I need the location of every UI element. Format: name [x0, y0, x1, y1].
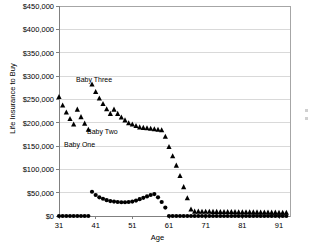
marker-point: [68, 214, 72, 218]
y-tick-label-8: $400,000: [0, 25, 54, 34]
marker-point: [138, 197, 142, 201]
y-tick-label-2: $100,000: [0, 165, 54, 174]
marker-point: [207, 214, 211, 218]
y-tick-label-7: $350,000: [0, 48, 54, 57]
marker-point: [262, 214, 266, 218]
marker-point: [204, 214, 208, 218]
marker-point: [226, 214, 230, 218]
marker-point: [193, 214, 197, 218]
marker-point: [218, 214, 222, 218]
marker-point: [284, 214, 288, 218]
x-tick-label-1: 41: [91, 221, 99, 230]
marker-point: [270, 214, 274, 218]
marker-point: [167, 214, 171, 218]
marker-point: [123, 200, 127, 204]
y-tick-label-6: $300,000: [0, 72, 54, 81]
marker-point: [75, 214, 79, 218]
marker-point: [83, 214, 87, 218]
marker-point: [86, 214, 90, 218]
y-tick-label-4: $200,000: [0, 118, 54, 127]
y-tick-label-0: $0: [0, 212, 54, 221]
marker-point: [94, 193, 98, 197]
marker-point: [185, 214, 189, 218]
marker-point: [101, 197, 105, 201]
marker-point: [79, 214, 83, 218]
y-tick-label-3: $150,000: [0, 142, 54, 151]
marker-point: [119, 200, 123, 204]
annotation-baby-one: Baby One: [64, 141, 95, 148]
marker-point: [149, 193, 153, 197]
marker-point: [182, 214, 186, 218]
marker-point: [189, 214, 193, 218]
legend-marker-1: [305, 109, 308, 112]
marker-point: [97, 195, 101, 199]
marker-point: [237, 214, 241, 218]
marker-point: [112, 199, 116, 203]
y-tick-label-5: $250,000: [0, 95, 54, 104]
marker-point: [240, 214, 244, 218]
marker-point: [72, 214, 76, 218]
marker-point: [160, 200, 164, 204]
marker-point: [259, 214, 263, 218]
marker-point: [178, 214, 182, 218]
x-tick-label-3: 61: [165, 221, 173, 230]
marker-point: [255, 214, 259, 218]
marker-point: [251, 214, 255, 218]
marker-point: [130, 199, 134, 203]
marker-point: [105, 198, 109, 202]
marker-point: [281, 214, 285, 218]
marker-point: [90, 190, 94, 194]
marker-point: [200, 214, 204, 218]
marker-point: [222, 214, 226, 218]
marker-point: [141, 196, 145, 200]
marker-point: [277, 214, 281, 218]
marker-point: [196, 214, 200, 218]
annotation-baby-two: Baby Two: [87, 128, 118, 135]
x-tick-label-5: 81: [238, 221, 246, 230]
marker-point: [211, 214, 215, 218]
marker-point: [108, 199, 112, 203]
marker-point: [61, 214, 65, 218]
marker-point: [248, 214, 252, 218]
x-axis-title: Age: [0, 233, 315, 242]
x-tick-label-6: 91: [275, 221, 283, 230]
marker-point: [64, 214, 68, 218]
marker-point: [171, 214, 175, 218]
marker-point: [127, 200, 131, 204]
x-tick-label-0: 31: [55, 221, 63, 230]
marker-point: [57, 214, 61, 218]
chart-container: Life Insurance to Buy $0$50,000$100,000$…: [0, 0, 315, 247]
marker-point: [273, 214, 277, 218]
marker-point: [244, 214, 248, 218]
y-tick-label-9: $450,000: [0, 2, 54, 11]
marker-point: [156, 195, 160, 199]
y-tick-label-1: $50,000: [0, 188, 54, 197]
plot-background: [59, 6, 290, 216]
legend-cropped: [301, 104, 313, 126]
marker-point: [174, 214, 178, 218]
legend-marker-2: [305, 117, 308, 120]
marker-point: [229, 214, 233, 218]
marker-point: [163, 206, 167, 210]
marker-point: [233, 214, 237, 218]
x-tick-label-2: 51: [128, 221, 136, 230]
x-tick-label-4: 71: [201, 221, 209, 230]
marker-point: [266, 214, 270, 218]
marker-point: [134, 199, 138, 203]
marker-point: [215, 214, 219, 218]
marker-point: [145, 194, 149, 198]
marker-point: [152, 192, 156, 196]
annotation-baby-three: Baby Three: [76, 76, 112, 83]
marker-point: [116, 200, 120, 204]
